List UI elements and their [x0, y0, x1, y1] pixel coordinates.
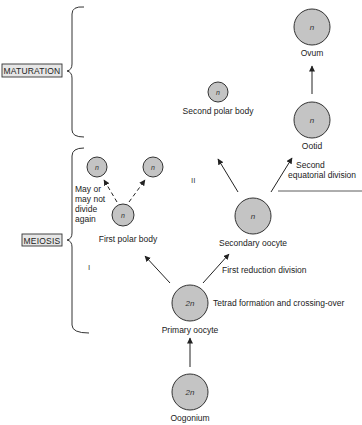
meiosis-brace: [67, 148, 89, 333]
dashed-arrow-to-right-daughter: [129, 180, 145, 202]
daughter-right-ploidy: n: [151, 164, 155, 171]
maturation-label-text: MATURATION: [4, 66, 61, 76]
first-division-marker: I: [88, 263, 90, 272]
tetrad-label: Tetrad formation and crossing-over: [213, 298, 345, 308]
second-polar-body-cell: n: [208, 82, 228, 102]
meiosis-stage-label: MEIOSIS: [22, 234, 62, 246]
ootid-ploidy: n: [310, 116, 315, 125]
second-polar-body-ploidy: n: [216, 89, 220, 96]
ovum-ploidy: n: [310, 23, 315, 32]
primary-oocyte-ploidy: 2n: [185, 299, 195, 308]
maturation-stage-label: MATURATION: [2, 64, 62, 77]
may-divide-line1: May or: [75, 184, 101, 194]
primary-oocyte-cell: 2n: [172, 285, 208, 321]
secondary-oocyte-ploidy: n: [251, 212, 256, 221]
oogonium-ploidy: 2n: [185, 388, 195, 397]
meiosis-label-text: MEIOSIS: [24, 236, 61, 246]
first-polar-body-daughter-left: n: [87, 157, 107, 177]
maturation-brace: [67, 7, 84, 137]
first-polar-body-daughter-right: n: [143, 157, 163, 177]
oogonium-cell: 2n: [172, 374, 208, 410]
may-divide-line4: again: [75, 214, 96, 224]
arrow-secondary-to-second-polar-body: [218, 159, 238, 192]
first-division-label: First reduction division: [222, 265, 307, 275]
ootid-cell: n: [294, 102, 330, 138]
first-polar-body-ploidy: n: [121, 212, 125, 219]
second-division-label-line2: equatorial division: [288, 170, 356, 180]
second-polar-body-label: Second polar body: [183, 106, 255, 116]
secondary-oocyte-cell: n: [235, 198, 271, 234]
first-polar-body-cell: n: [112, 204, 134, 226]
ootid-label: Ootid: [302, 141, 323, 151]
second-division-marker: II: [191, 176, 195, 185]
arrow-primary-to-first-polar-body: [145, 256, 170, 283]
secondary-oocyte-label: Secondary oocyte: [219, 238, 287, 248]
oogenesis-diagram: MATURATION MEIOSIS I II n Ovum n Ootid n…: [0, 0, 362, 425]
oogonium-label: Oogonium: [170, 413, 209, 423]
second-division-label-line1: Second: [296, 160, 325, 170]
first-polar-body-label: First polar body: [99, 234, 158, 244]
may-divide-line2: may not: [75, 194, 106, 204]
dashed-arrow-to-left-daughter: [104, 180, 117, 202]
ovum-label: Ovum: [301, 48, 324, 58]
daughter-left-ploidy: n: [95, 164, 99, 171]
may-divide-line3: divide: [75, 204, 97, 214]
primary-oocyte-label: Primary oocyte: [162, 325, 219, 335]
ovum-cell: n: [294, 9, 330, 45]
